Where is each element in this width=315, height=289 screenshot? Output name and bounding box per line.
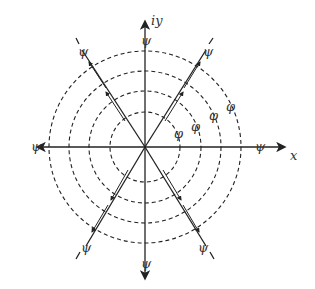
psi-lower-right: ψ <box>198 240 209 255</box>
psi-top: ψ <box>141 33 152 48</box>
psi-right: ψ <box>255 139 266 154</box>
phi-1: φ <box>174 126 184 141</box>
psi-upper-left: ψ <box>78 44 89 59</box>
x-label: x <box>290 148 298 163</box>
axes <box>38 22 284 278</box>
psi-left: ψ <box>31 139 42 154</box>
psi-lower-left: ψ <box>81 240 92 255</box>
labels: iy x ψ ψ ψ ψ ψ ψ ψ ψ φ φ φ φ <box>31 13 298 271</box>
iy-label: iy <box>151 13 163 28</box>
phi-4: φ <box>226 99 236 114</box>
psi-upper-right: ψ <box>203 44 214 59</box>
conformal-diagram: iy x ψ ψ ψ ψ ψ ψ ψ ψ φ φ φ φ <box>0 0 315 289</box>
phi-3: φ <box>209 108 219 123</box>
psi-bottom: ψ <box>141 256 152 271</box>
phi-2: φ <box>191 119 201 134</box>
